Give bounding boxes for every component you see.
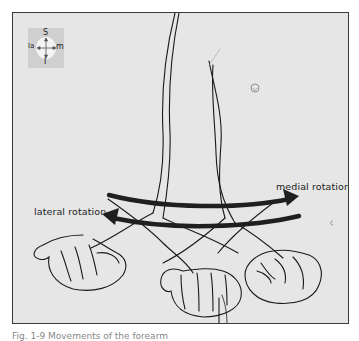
compass-inferior: I xyxy=(44,58,46,66)
medial-rotation-arrow xyxy=(109,189,299,206)
marker-circle xyxy=(251,84,259,92)
compass-medial: m xyxy=(56,43,64,51)
compass-lateral: la xyxy=(28,43,34,50)
figure-caption: Fig. 1-9 Movements of the forearm xyxy=(12,331,168,341)
medial-rotation-label: medial rotation xyxy=(276,181,349,192)
lateral-rotation-arrow xyxy=(102,208,299,226)
orientation-compass: S la m I xyxy=(28,28,64,68)
lateral-rotation-label: lateral rotation xyxy=(34,206,106,217)
compass-superior: S xyxy=(43,29,48,37)
arm-outline-left xyxy=(153,13,175,213)
illustration-frame: S la m I lateral rotation medial rotatio… xyxy=(12,12,349,324)
marker-small xyxy=(331,221,333,225)
